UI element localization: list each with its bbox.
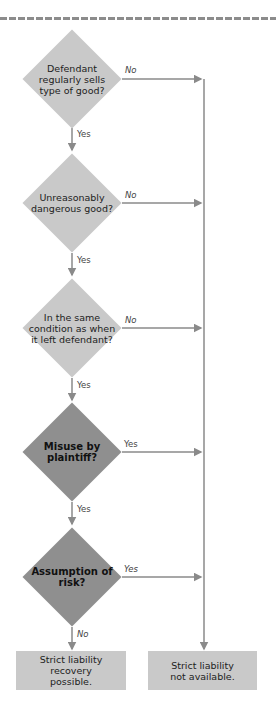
down-label-yes: Yes [77,129,91,139]
decision-text-assumption-of-risk: Assumption of risk? [30,547,114,607]
down-label-yes: Yes [77,380,91,390]
decision-text-misuse: Misuse by plaintiff? [37,422,107,482]
decision-text-sells-good: Defendant regularly sells type of good? [27,49,117,109]
down-label-no: No [77,629,89,639]
decision-text-same-condition: In the same condition as when it left de… [27,298,117,358]
side-label-no: No [125,190,137,200]
down-label-yes: Yes [77,504,91,514]
outcome-text: Strict liability recovery possible. [31,654,111,687]
side-label-yes: Yes [124,439,138,449]
decision-text-unreasonably-dangerous: Unreasonably dangerous good? [27,173,117,233]
side-label-no: No [125,65,137,75]
side-label-no: No [125,315,137,325]
down-label-yes: Yes [77,255,91,265]
side-label-yes: Yes [124,564,138,574]
outcome-recovery-possible: Strict liability recovery possible. [16,651,126,690]
outcome-not-available: Strict liability not available. [148,651,257,690]
outcome-text: Strict liability not available. [163,660,243,682]
